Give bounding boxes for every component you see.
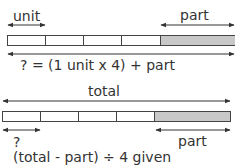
diagram2-total-label: total [88,84,120,98]
diagram1-formula: ? = (1 unit x 4) + part [20,58,175,72]
diagram2-unknown-label: ? [13,135,20,149]
diagram1-part-segment [161,36,236,46]
diagram2-bar [3,112,231,122]
diagram1-bar [8,36,236,46]
diagram1-part-label: part [180,8,209,22]
diagram2-part-segment [155,112,231,122]
diagram2-formula: (total - part) ÷ 4 given [13,150,171,164]
diagram1-unit-label: unit [13,9,40,23]
diagram2-part-label: part [178,134,207,148]
